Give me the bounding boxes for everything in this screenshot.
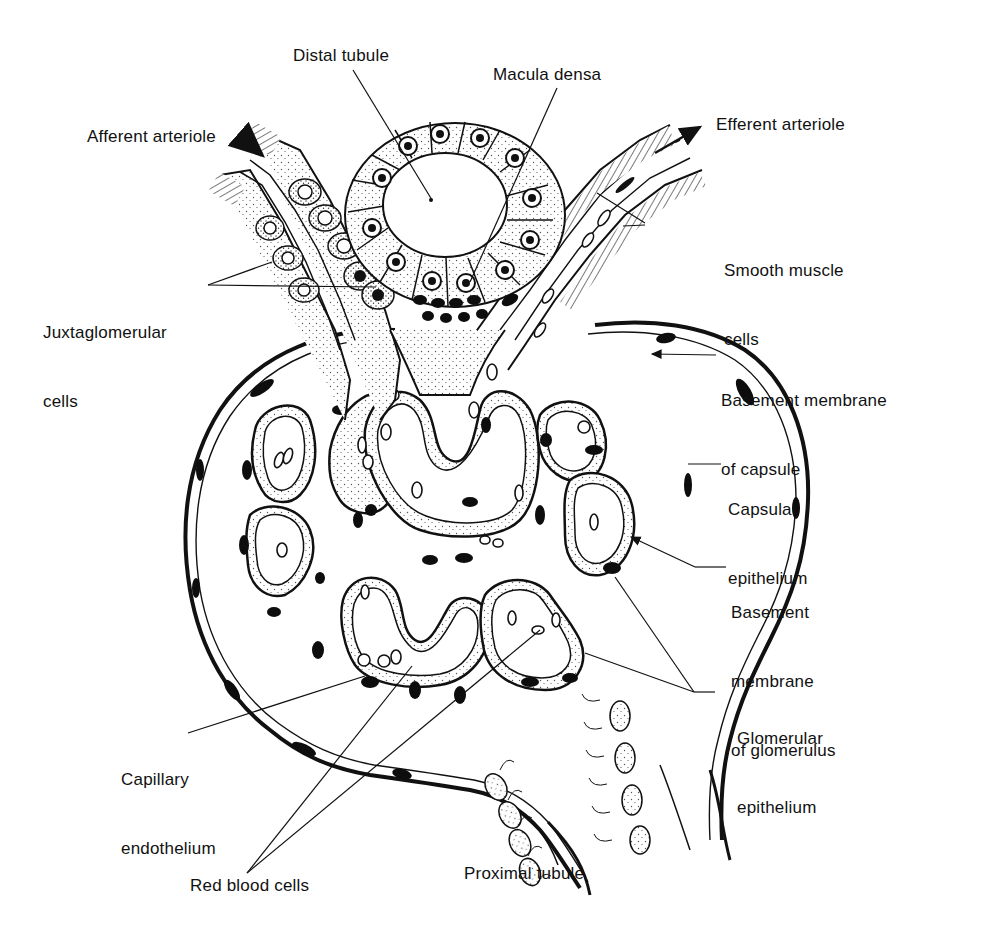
label-red-blood-cells: Red blood cells bbox=[190, 874, 309, 897]
label-efferent-arteriole: Efferent arteriole bbox=[716, 113, 845, 136]
label-distal-tubule: Distal tubule bbox=[293, 44, 389, 67]
hilum-stalk bbox=[390, 330, 505, 395]
brush-border bbox=[500, 694, 612, 884]
label-macula-densa: Macula densa bbox=[493, 63, 601, 86]
label-capillary-endothelium: Capillary endothelium bbox=[121, 722, 216, 883]
distal-tubule bbox=[345, 122, 565, 307]
label-glomerular-epithelium: Glomerular epithelium bbox=[737, 681, 823, 842]
label-proximal-tubule: Proximal tubule bbox=[464, 862, 584, 885]
label-afferent-arteriole: Afferent arteriole bbox=[87, 125, 216, 148]
label-juxtaglomerular-cells: Juxtaglomerular cells bbox=[43, 275, 167, 436]
